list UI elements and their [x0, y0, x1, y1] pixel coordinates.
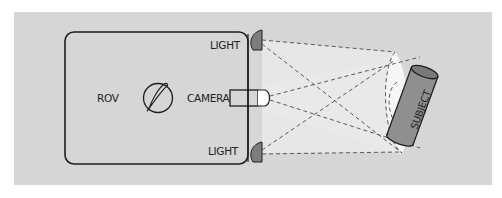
light-bottom-label: LIGHT [208, 145, 239, 157]
rov-label: ROV [97, 92, 120, 104]
camera-lens-icon [258, 90, 270, 106]
light-top-label: LIGHT [210, 39, 241, 51]
camera-label: CAMERA [187, 92, 231, 104]
rov-camera-lighting-diagram: ROV CAMERA LIGHT LIGHT SUBJECT [0, 0, 502, 198]
